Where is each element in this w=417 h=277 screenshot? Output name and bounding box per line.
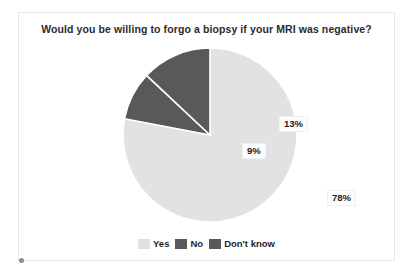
chart-legend: Yes No Don't know [18,238,395,249]
selection-handle-dot[interactable] [19,258,24,263]
legend-label-yes: Yes [153,238,169,249]
legend-label-no: No [190,238,203,249]
legend-item-dont-know[interactable]: Don't know [209,238,275,249]
slice-label-dont-know: 13% [279,116,308,132]
legend-label-dont-know: Don't know [224,238,275,249]
chart-screenshot: Would you be willing to forgo a biopsy i… [0,0,417,277]
legend-swatch-yes [138,239,150,249]
pie-chart-svg [110,42,315,232]
legend-item-yes[interactable]: Yes [138,238,169,249]
legend-item-no[interactable]: No [175,238,203,249]
pie-chart-plot-area: 13% 9% 78% [110,42,315,232]
legend-swatch-no [175,239,187,249]
chart-title: Would you be willing to forgo a biopsy i… [18,23,395,36]
slice-label-yes: 78% [327,190,356,206]
legend-swatch-dont-know [209,239,221,249]
slice-label-no: 9% [242,143,266,159]
